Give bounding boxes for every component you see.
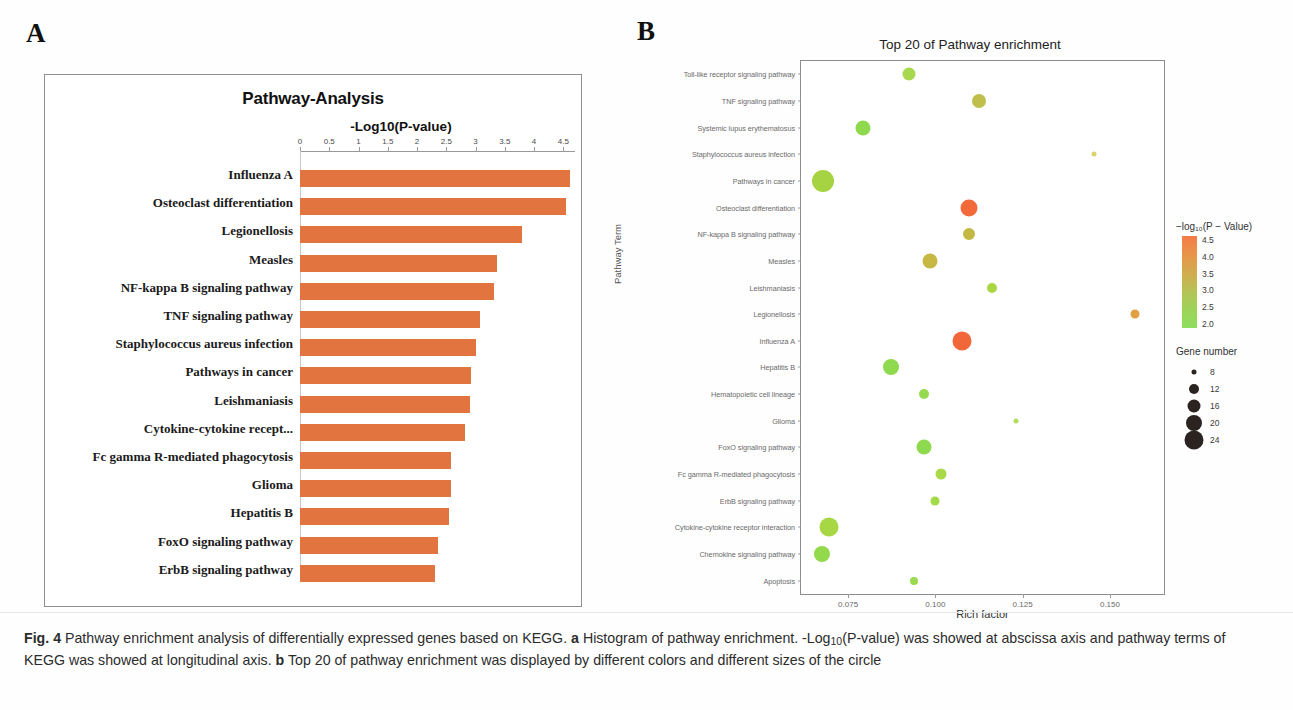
panel-a-x-tick-mark	[563, 147, 564, 151]
panel-b-y-tick-mark	[798, 127, 801, 128]
panel-a-bar	[300, 170, 570, 187]
panel-b-bubble	[972, 94, 986, 108]
panel-a-x-tick-mark	[505, 147, 506, 151]
color-legend-tick-label: 3.5	[1202, 269, 1214, 279]
panel-b-y-axis-label: Pathway Term	[612, 224, 623, 284]
panel-a-category-label: Cytokine-cytokine recept...	[144, 421, 293, 437]
panel-b-bubble	[814, 546, 830, 562]
panel-b-bubble	[883, 359, 899, 375]
caption-text-4: Top 20 of pathway enrichment was display…	[284, 652, 881, 668]
panel-b-bubble	[931, 496, 940, 505]
panel-b-y-tick-label: Glioma	[772, 416, 795, 425]
panel-b-bubble	[812, 170, 834, 192]
size-legend-label: 24	[1210, 435, 1219, 445]
caption-b-label: b	[276, 652, 285, 668]
panel-b-y-tick-mark	[798, 234, 801, 235]
panel-a-bar	[300, 339, 476, 356]
caption-a-label: a	[571, 630, 579, 646]
panel-a-x-tick-mark	[300, 147, 301, 151]
panel-b-y-tick-mark	[798, 394, 801, 395]
panel-b-bubble	[916, 440, 931, 455]
figure-page: A B Pathway-Analysis -Log10(P-value) 00.…	[0, 0, 1293, 710]
color-legend-gradient-bar	[1182, 236, 1197, 328]
size-legend-dot	[1192, 369, 1197, 374]
panel-letter-a: A	[26, 18, 46, 49]
panel-b-y-tick-mark	[798, 340, 801, 341]
panel-a-x-tick-label: 1	[356, 137, 360, 146]
panel-b-bubble	[1014, 418, 1019, 423]
panel-b-x-tick-mark	[848, 594, 849, 598]
panel-b-y-tick-label: Hematopoietic cell lineage	[711, 390, 795, 399]
panel-a-bar-chart: Pathway-Analysis -Log10(P-value) 00.511.…	[44, 74, 582, 607]
panel-b-bubble	[902, 68, 915, 81]
size-legend-dot	[1188, 399, 1201, 412]
panel-b-y-tick-label: Legionellosis	[753, 310, 795, 319]
panel-b-y-tick-label: FoxO signaling pathway	[718, 443, 795, 452]
panel-a-bar	[300, 452, 451, 469]
panel-a-bar	[300, 255, 497, 272]
panel-b-y-tick-label: ErbB signaling pathway	[720, 496, 795, 505]
panel-a-x-tick-mark	[476, 147, 477, 151]
panel-a-category-label: Legionellosis	[221, 223, 293, 239]
size-legend-label: 20	[1210, 418, 1219, 428]
panel-b-y-tick-label: Cytokine-cytokine receptor interaction	[675, 523, 795, 532]
panel-a-x-tick-label: 4	[532, 137, 536, 146]
panel-a-category-label: Glioma	[252, 477, 293, 493]
panel-a-category-label: Osteoclast differentiation	[153, 195, 293, 211]
color-legend-tick-label: 3.0	[1202, 285, 1214, 295]
panel-b-y-tick-mark	[798, 287, 801, 288]
size-legend-title: Gene number	[1176, 346, 1290, 357]
panel-a-category-label: Fc gamma R-mediated phagocytosis	[93, 449, 293, 465]
size-legend-dot	[1189, 384, 1199, 394]
panel-b-y-tick-mark	[798, 527, 801, 528]
panel-a-bar	[300, 396, 470, 413]
panel-b-y-tick-label: Systemic lupus erythematosus	[697, 123, 795, 132]
panel-a-x-tick-mark	[446, 147, 447, 151]
panel-a-x-tick-mark	[417, 147, 418, 151]
panel-b-y-tick-mark	[798, 500, 801, 501]
panel-b-y-tick-label: Influenza A	[759, 336, 795, 345]
size-legend-label: 16	[1210, 401, 1219, 411]
caption-separator	[0, 612, 1293, 613]
panel-b-bubble	[963, 228, 975, 240]
panel-b-bubble	[952, 331, 971, 350]
panel-b-y-tick-mark	[798, 580, 801, 581]
color-legend: −log₁₀(P − Value) 4.54.03.53.02.52.0	[1180, 221, 1280, 328]
panel-b-y-tick-label: Fc gamma R-mediated phagocytosis	[678, 470, 795, 479]
panel-b-bubble	[919, 389, 929, 399]
panel-a-category-label: ErbB signaling pathway	[159, 562, 293, 578]
panel-b-y-tick-label: TNF signaling pathway	[722, 96, 795, 105]
size-legend-row: 12	[1180, 380, 1290, 397]
panel-a-title: Pathway-Analysis	[45, 89, 581, 109]
size-legend-row: 16	[1180, 397, 1290, 414]
panel-a-x-tick-label: 2	[415, 137, 419, 146]
color-legend-title: −log₁₀(P − Value)	[1176, 221, 1280, 232]
panel-b-bubble	[960, 199, 977, 216]
panel-b-bubble	[855, 120, 870, 135]
panel-a-axis-line	[300, 151, 575, 152]
size-legend-label: 12	[1210, 384, 1219, 394]
panel-a-bar	[300, 367, 471, 384]
panel-a-bar	[300, 424, 465, 441]
panel-a-category-label: Pathways in cancer	[185, 364, 293, 380]
panel-b-y-tick-label: Osteoclast differentiation	[716, 203, 795, 212]
panel-b-y-tick-mark	[798, 260, 801, 261]
panel-b-y-tick-mark	[798, 74, 801, 75]
panel-b-y-tick-mark	[798, 554, 801, 555]
panel-a-bar	[300, 198, 566, 215]
panel-b-y-tick-label: Hepatitis B	[760, 363, 795, 372]
size-legend-row: 20	[1180, 414, 1290, 431]
panel-b-y-tick-mark	[798, 154, 801, 155]
panel-a-x-tick-label: 2.5	[441, 137, 452, 146]
panel-a-bar	[300, 537, 438, 554]
panel-a-category-label: Influenza A	[228, 167, 293, 183]
panel-b-bubble-chart: Top 20 of Pathway enrichment Pathway Ter…	[610, 16, 1282, 616]
panel-b-y-tick-mark	[798, 447, 801, 448]
panel-a-category-label: Measles	[249, 252, 293, 268]
panel-b-y-tick-mark	[798, 100, 801, 101]
panel-a-x-tick-mark	[534, 147, 535, 151]
size-legend-row: 24	[1180, 431, 1290, 448]
color-legend-tick-label: 4.5	[1202, 235, 1214, 245]
panel-a-category-label: Hepatitis B	[231, 505, 293, 521]
caption-subscript-10: 10	[831, 635, 843, 647]
